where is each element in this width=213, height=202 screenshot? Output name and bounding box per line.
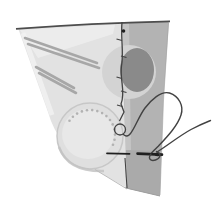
stitch-dot: [113, 139, 116, 142]
thread-tail: [157, 121, 211, 153]
stitch-dot: [101, 112, 104, 115]
stitch-dot: [68, 119, 71, 122]
needle-point-segment: [107, 153, 130, 154]
stitch-dot: [81, 110, 84, 113]
stitch-dot: [91, 109, 94, 112]
stitch-dot: [96, 110, 99, 113]
stitch-dot: [76, 112, 79, 115]
stitch-dot: [86, 109, 89, 112]
sewing-illustration: [0, 0, 213, 202]
sewing-illustration-figure: [0, 0, 213, 202]
stitch-dot: [105, 115, 108, 118]
stitch-dot: [112, 144, 115, 147]
stitch-dot: [109, 119, 112, 122]
stitch-dot: [111, 123, 114, 126]
thread-knot: [122, 29, 126, 33]
dark-circle-motif: [102, 45, 156, 99]
dark-circle: [120, 48, 154, 92]
stitch-dot: [72, 115, 75, 118]
